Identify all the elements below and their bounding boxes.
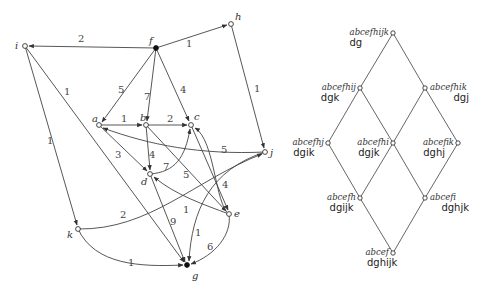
- edge-weight-label: 1: [254, 83, 260, 94]
- vertex-dot: [144, 123, 149, 128]
- lattice-complement-label: dgik: [293, 147, 314, 158]
- lattice-set-label: abcefik: [423, 137, 454, 147]
- edge-k-g: 1: [78, 229, 183, 268]
- lattice-dot: [391, 31, 395, 35]
- edge-weight-label: 1: [128, 257, 134, 268]
- lattice-dot: [326, 141, 330, 145]
- edge-weight-label: 1: [183, 204, 189, 215]
- edge-line: [103, 128, 265, 153]
- edge-weight-label: 5: [221, 144, 227, 155]
- vertex-j: j: [263, 147, 274, 158]
- edge-weight-label: 2: [120, 209, 126, 220]
- edge-weight-label: 4: [222, 179, 228, 190]
- lattice-edge: [360, 198, 393, 253]
- lattice-set-label: abcef: [366, 247, 391, 257]
- edge-weight-label: 5: [118, 84, 124, 95]
- lattice-node-l3: abcefhdgijk: [327, 192, 362, 213]
- edge-line: [146, 125, 226, 211]
- lattice-edge: [393, 33, 425, 88]
- edge-weight-label: 1: [121, 113, 127, 124]
- edge-line: [146, 125, 150, 170]
- vertex-dot: [227, 212, 232, 217]
- vertex-a: a: [92, 113, 101, 127]
- edge-weight-label: 7: [163, 161, 169, 172]
- diagram-canvas: 2157411112345475121916 ifhabcjdekg abcef…: [0, 0, 487, 288]
- edge-weight-label: 1: [47, 135, 53, 146]
- vertex-label: b: [140, 112, 146, 123]
- edge-line: [154, 177, 229, 214]
- lattice-dot: [456, 141, 460, 145]
- edge-i-g: 1: [25, 46, 184, 262]
- lattice-node-r2: abcefikdghj: [423, 137, 460, 158]
- edge-weight-label: 2: [78, 33, 84, 44]
- graph-edges: 2157411112345475121916: [25, 24, 265, 268]
- lattice-complement-label: dgk: [321, 92, 340, 103]
- vertex-label: e: [234, 208, 240, 219]
- lattice-node-bot: abcefdghijk: [366, 247, 398, 268]
- lattice-node-l2: abcefhjdgik: [292, 137, 330, 158]
- vertex-dot: [154, 46, 159, 51]
- lattice-complement-label: dgjk: [358, 147, 379, 158]
- lattice-complement-label: dghjk: [441, 202, 469, 213]
- vertex-label: c: [194, 111, 200, 122]
- vertex-label: d: [141, 176, 147, 187]
- edge-weight-label: 9: [170, 216, 176, 227]
- lattice-edge: [393, 143, 425, 198]
- lattice-edge: [360, 33, 393, 88]
- edge-b-c: 2: [146, 113, 187, 125]
- lattice-set-label: abcefhj: [292, 137, 324, 147]
- edge-f-i: 2: [29, 33, 156, 48]
- vertex-label: j: [268, 147, 273, 158]
- lattice-edge: [360, 88, 393, 143]
- lattice-set-label: abcefhi: [357, 137, 389, 147]
- edge-i-k: 1: [25, 46, 77, 225]
- edge-line: [29, 46, 156, 48]
- edge-a-b: 1: [99, 113, 142, 125]
- lattice-set-label: abcefi: [430, 192, 456, 202]
- edge-weight-label: 5: [183, 169, 189, 180]
- lattice-complement-label: dgijk: [330, 202, 354, 213]
- vertex-e: e: [227, 208, 240, 219]
- edge-c-e: 4: [191, 125, 228, 210]
- vertex-dot: [23, 44, 28, 49]
- lattice-edge: [328, 143, 360, 198]
- edge-line: [99, 125, 147, 171]
- edge-j-g: 1: [189, 152, 265, 261]
- lattice-dot: [358, 196, 362, 200]
- lattice-dot: [358, 86, 362, 90]
- lattice-set-label: abcefh: [327, 192, 356, 202]
- edge-line: [191, 125, 228, 210]
- edge-weight-label: 4: [149, 149, 155, 160]
- vertex-label: a: [92, 113, 98, 124]
- lattice-dot: [391, 251, 395, 255]
- vertex-d: d: [141, 172, 152, 187]
- lattice-node-r1: abcefhikdgj: [423, 82, 469, 103]
- lattice-dot: [423, 86, 427, 90]
- edge-weight-label: 3: [115, 149, 121, 160]
- edge-weight-label: 1: [64, 86, 70, 97]
- edge-weight-label: 6: [207, 241, 213, 252]
- edge-h-j: 1: [231, 24, 264, 148]
- edge-e-d: 1: [154, 177, 229, 215]
- vertex-dot: [148, 172, 153, 177]
- lattice-edge: [393, 88, 425, 143]
- vertex-label: h: [235, 11, 241, 22]
- vertex-label: g: [192, 270, 198, 281]
- lattice-edge: [393, 198, 425, 253]
- vertex-k: k: [67, 227, 80, 240]
- vertex-dot: [189, 123, 194, 128]
- edge-weight-label: 1: [195, 227, 201, 238]
- edge-f-c: 4: [156, 48, 189, 121]
- lattice-node-top: abcefhijkdg: [349, 27, 395, 48]
- vertex-label: i: [15, 40, 18, 51]
- vertex-dot: [263, 150, 268, 155]
- lattice-set-label: abcefhik: [430, 82, 467, 92]
- edge-weight-label: 1: [186, 38, 192, 49]
- vertex-dot: [229, 22, 234, 27]
- edge-b-d: 4: [146, 125, 155, 170]
- lattice-set-label: abcefhijk: [350, 27, 389, 37]
- vertex-label: f: [148, 35, 155, 46]
- lattice-complement-label: dg: [349, 37, 362, 48]
- vertex-h: h: [229, 11, 242, 26]
- lattice-complement-label: dghj: [423, 147, 445, 158]
